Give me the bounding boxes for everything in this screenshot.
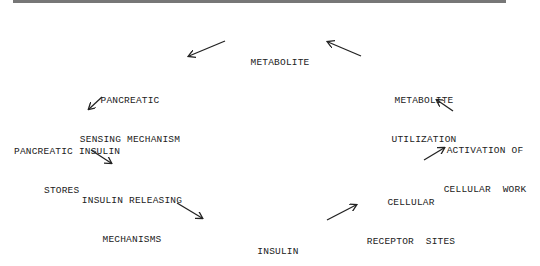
arrow-icon bbox=[89, 97, 102, 109]
arrows-layer bbox=[0, 0, 540, 266]
arrow-icon bbox=[328, 42, 361, 56]
arrow-icon bbox=[177, 203, 202, 218]
arrow-icon bbox=[327, 205, 356, 220]
arrow-icon bbox=[424, 148, 444, 160]
arrow-icon bbox=[91, 150, 111, 163]
arrow-icon bbox=[189, 41, 225, 56]
arrow-icon bbox=[437, 100, 453, 111]
